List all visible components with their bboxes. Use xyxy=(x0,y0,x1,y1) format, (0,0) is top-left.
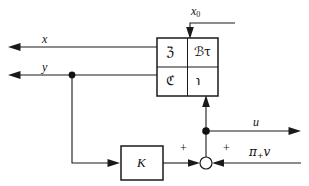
label-cell-C: ℭ xyxy=(166,75,175,88)
wire-gain-to-sum xyxy=(163,159,200,167)
label-pi-subscript: + xyxy=(257,151,264,160)
label-state-output-x: x xyxy=(42,33,47,45)
wire-sum-to-block-bottom xyxy=(202,95,210,157)
label-sum-plus-left: + xyxy=(180,142,187,154)
wire-exogenous-input xyxy=(212,159,301,167)
label-pi-base: π xyxy=(249,145,257,159)
label-control-output-u: u xyxy=(253,116,259,128)
label-gain-K: K xyxy=(137,156,146,169)
label-cell-Btau: ℬτ xyxy=(194,46,211,59)
label-exogenous-input: π+v xyxy=(249,146,270,160)
wire-feedback-to-gain xyxy=(72,75,120,167)
label-measured-output-y: y xyxy=(42,61,47,73)
wire-state-output-x xyxy=(8,43,157,51)
summing-junction-circle xyxy=(200,157,212,169)
label-x0-subscript: 0 xyxy=(196,10,200,19)
label-sum-plus-right: + xyxy=(223,142,230,154)
wire-initial-state-x0 xyxy=(186,23,235,39)
label-v-base: v xyxy=(264,145,271,159)
label-cell-D: ℩ xyxy=(196,75,200,88)
block-diagram-figure: x0 x y ℨ ℬτ ℭ ℩ K + + u π+v xyxy=(0,0,309,186)
label-cell-A: ℨ xyxy=(166,46,174,59)
label-initial-state-x0: x0 xyxy=(191,5,200,19)
wire-measured-output-y xyxy=(8,71,157,79)
